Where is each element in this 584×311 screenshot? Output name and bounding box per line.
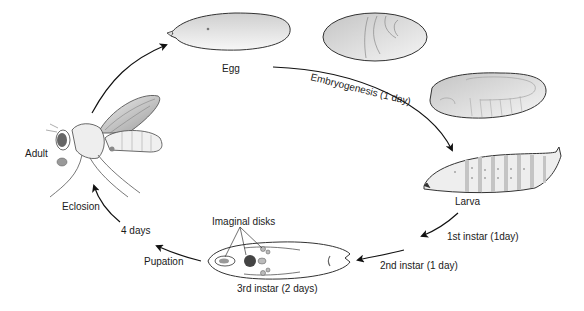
life-cycle-diagram: Egg Embryogenesis (1 day) Larva 1st inst…: [0, 0, 584, 311]
label-egg: Egg: [222, 63, 240, 74]
label-embryogenesis: Embryogenesis (1 day): [310, 71, 412, 107]
label-four-days: 4 days: [121, 225, 150, 236]
label-larva: Larva: [455, 196, 480, 207]
label-second-instar: 2nd instar (1 day): [380, 260, 458, 271]
larva-illustration: [424, 147, 561, 193]
label-adult: Adult: [25, 148, 48, 159]
label-eclosion: Eclosion: [62, 201, 100, 212]
label-imaginal-disks: Imaginal disks: [212, 216, 275, 227]
egg-illustration: [167, 13, 290, 50]
arrow-embryogenesis: [273, 67, 452, 150]
label-first-instar: 1st instar (1day): [447, 231, 519, 242]
adult-fly-illustration: [46, 95, 162, 197]
label-third-instar: 3rd instar (2 days): [237, 283, 318, 294]
embryo-early-illustration: [323, 13, 427, 61]
arrow-second-instar: [358, 250, 404, 260]
label-pupation: Pupation: [144, 256, 183, 267]
third-instar-illustration: [208, 227, 350, 279]
embryo-late-illustration: [430, 73, 546, 118]
